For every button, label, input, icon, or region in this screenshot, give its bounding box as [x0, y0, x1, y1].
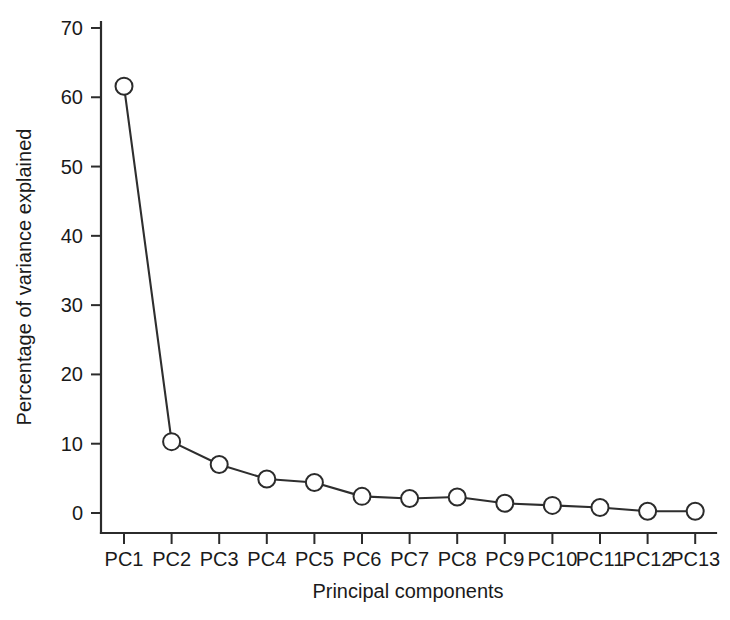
- y-tick-label: 40: [61, 225, 83, 247]
- y-tick-label: 20: [61, 363, 83, 385]
- x-tick-label: PC9: [485, 548, 524, 570]
- y-axis-ticks: 010203040506070: [61, 17, 101, 524]
- scree-plot-figure: 010203040506070 PC1PC2PC3PC4PC5PC6PC7PC8…: [0, 0, 730, 620]
- scree-plot-svg: 010203040506070 PC1PC2PC3PC4PC5PC6PC7PC8…: [0, 0, 730, 620]
- y-tick-label: 70: [61, 17, 83, 39]
- variance-series-line: [124, 86, 695, 511]
- x-tick-label: PC1: [105, 548, 144, 570]
- x-tick-label: PC4: [247, 548, 286, 570]
- data-point-marker: [449, 489, 466, 506]
- y-tick-label: 50: [61, 156, 83, 178]
- y-tick-label: 60: [61, 86, 83, 108]
- axis-spines: [101, 22, 716, 533]
- data-point-marker: [401, 490, 418, 507]
- data-point-marker: [163, 433, 180, 450]
- data-point-marker: [116, 78, 133, 95]
- data-point-marker: [354, 488, 371, 505]
- data-point-marker: [592, 499, 609, 516]
- variance-series-markers: [116, 78, 704, 520]
- x-tick-label: PC7: [390, 548, 429, 570]
- x-tick-label: PC8: [438, 548, 477, 570]
- x-tick-label: PC13: [670, 548, 720, 570]
- data-point-marker: [258, 471, 275, 488]
- y-axis-title: Percentage of variance explained: [13, 129, 35, 426]
- y-tick-label: 10: [61, 433, 83, 455]
- x-tick-label: PC11: [576, 548, 625, 570]
- x-tick-label: PC2: [152, 548, 191, 570]
- x-tick-label: PC12: [623, 548, 673, 570]
- data-point-marker: [496, 495, 513, 512]
- x-tick-label: PC10: [527, 548, 577, 570]
- x-tick-label: PC5: [295, 548, 334, 570]
- x-tick-label: PC6: [343, 548, 382, 570]
- x-axis-title: Principal components: [312, 580, 503, 602]
- data-point-marker: [306, 474, 323, 491]
- data-point-marker: [639, 503, 656, 520]
- x-axis-ticks: PC1PC2PC3PC4PC5PC6PC7PC8PC9PC10PC11PC12P…: [105, 533, 721, 570]
- data-point-marker: [687, 503, 704, 520]
- data-point-marker: [211, 456, 228, 473]
- y-tick-label: 0: [72, 502, 83, 524]
- y-tick-label: 30: [61, 294, 83, 316]
- data-point-marker: [544, 497, 561, 514]
- x-tick-label: PC3: [200, 548, 239, 570]
